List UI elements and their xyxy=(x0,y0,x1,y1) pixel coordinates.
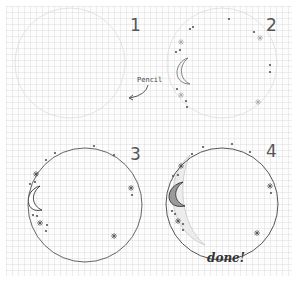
star-dot-icon xyxy=(36,215,38,217)
star-icon xyxy=(33,171,39,177)
star-dot-icon xyxy=(189,28,191,30)
star-dot-icon xyxy=(34,181,36,183)
done-caption: done! xyxy=(207,251,245,265)
star-icon xyxy=(111,233,117,239)
star-icon xyxy=(267,183,273,189)
star-dot-icon xyxy=(177,174,179,176)
star-dot-icon xyxy=(249,151,251,153)
star-dot-icon xyxy=(175,51,177,53)
star-dot-icon xyxy=(179,49,181,51)
star-icon xyxy=(128,185,134,191)
star-dot-icon xyxy=(182,229,184,231)
star-dot-icon xyxy=(174,213,176,215)
star-dot-icon xyxy=(182,223,184,225)
star-dot-icon xyxy=(171,210,173,212)
star-dot-icon xyxy=(45,230,47,232)
step-number: 3 xyxy=(130,144,141,164)
star-dot-icon xyxy=(54,152,56,154)
star-dot-icon xyxy=(172,175,174,177)
star-dot-icon xyxy=(269,64,271,66)
step-number: 1 xyxy=(130,15,141,35)
pencil-note: Pencil xyxy=(137,76,162,84)
moon-outline-icon xyxy=(177,58,190,84)
star-icon xyxy=(178,92,184,98)
star-dot-icon xyxy=(202,146,204,148)
step-2-panel: 2 xyxy=(167,8,277,118)
step-number: 2 xyxy=(266,15,277,35)
star-dot-icon xyxy=(186,106,188,108)
star-icon xyxy=(37,220,43,226)
star-dot-icon xyxy=(176,88,178,90)
star-dot-icon xyxy=(46,224,48,226)
star-icon xyxy=(178,163,184,169)
star-icon xyxy=(255,99,261,105)
star-dot-icon xyxy=(32,214,34,216)
step-1-panel: 1 Pencil xyxy=(15,8,162,118)
star-dot-icon xyxy=(45,159,47,161)
star-icon xyxy=(175,218,181,224)
star-dot-icon xyxy=(131,194,133,196)
step-4-panel: 4 done! xyxy=(166,141,278,265)
star-dot-icon xyxy=(93,145,95,147)
star-dot-icon xyxy=(185,100,187,102)
star-icon xyxy=(254,230,260,236)
star-dot-icon xyxy=(269,71,271,73)
pencil-circle-guide xyxy=(15,8,125,118)
step-number: 4 xyxy=(266,141,277,161)
curved-arrow-icon xyxy=(130,85,148,98)
star-icon xyxy=(257,35,263,41)
star-dot-icon xyxy=(191,153,193,155)
star-dot-icon xyxy=(228,18,230,20)
star-dot-icon xyxy=(270,192,272,194)
star-dot-icon xyxy=(253,31,255,33)
ink-circle xyxy=(28,148,142,262)
drawing-steps-illustration: 1 Pencil 2 3 xyxy=(0,0,302,285)
star-dot-icon xyxy=(29,183,31,185)
star-dot-icon xyxy=(192,26,194,28)
star-icon xyxy=(178,39,184,45)
star-dot-icon xyxy=(231,143,233,145)
star-dot-icon xyxy=(113,154,115,156)
step-3-panel: 3 xyxy=(28,144,142,262)
